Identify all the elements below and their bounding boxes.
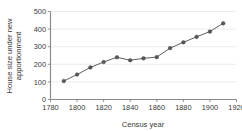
x-tick-label-1920: 1920	[228, 103, 242, 112]
data-point	[168, 46, 172, 50]
x-tick-label-1900: 1900	[202, 103, 218, 112]
chart-figure: 0100200300400500 17801800182018401860188…	[0, 0, 242, 131]
data-point	[62, 79, 66, 83]
data-point	[142, 56, 146, 60]
x-tick-label-1860: 1860	[149, 103, 165, 112]
x-tick-label-1800: 1800	[69, 103, 85, 112]
x-axis-title: Census year	[122, 120, 165, 129]
x-tick-label-1840: 1840	[122, 103, 138, 112]
data-point	[89, 66, 93, 70]
data-point	[102, 60, 106, 64]
data-point	[128, 58, 132, 62]
data-point	[182, 40, 186, 44]
x-tick-label-1820: 1820	[95, 103, 111, 112]
y-axis-title-line-1: House size under new	[5, 18, 14, 94]
data-point	[208, 30, 212, 34]
y-tick-label-200: 200	[34, 60, 46, 69]
data-point	[75, 73, 79, 77]
line-chart: 0100200300400500 17801800182018401860188…	[0, 0, 242, 131]
data-point	[155, 55, 159, 59]
data-point	[195, 35, 199, 39]
y-tick-label-300: 300	[34, 42, 46, 51]
y-axis-title-line-2: apportionment	[14, 31, 23, 80]
y-tick-label-100: 100	[34, 78, 46, 87]
data-point	[115, 55, 119, 59]
x-tick-label-1780: 1780	[42, 103, 58, 112]
data-point	[221, 21, 225, 25]
x-tick-label-1880: 1880	[175, 103, 191, 112]
y-tick-label-400: 400	[34, 25, 46, 34]
y-tick-label-500: 500	[34, 7, 46, 16]
